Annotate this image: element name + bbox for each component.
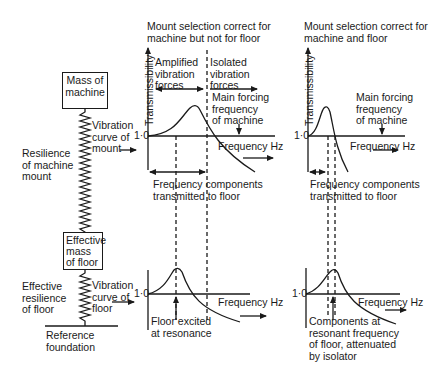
mid-top-x-axis-label: Frequency Hz	[218, 141, 283, 153]
main-forcing-frequency-label: Main forcing frequency of machine	[212, 92, 269, 127]
vibration-curve-mount-label: Vibration curve of mount	[92, 120, 133, 155]
mass-of-machine-box: Mass of machine	[62, 72, 108, 109]
mass-of-machine-label: Mass of machine	[63, 73, 107, 98]
mid-bottom-y-tick: 1·0	[134, 288, 149, 300]
vibration-curve-floor-label: Vibration curve of floor	[92, 280, 133, 315]
reference-foundation-label: Reference foundation	[46, 330, 95, 353]
mid-bottom-x-axis-label: Frequency Hz	[218, 297, 283, 309]
amplified-vibration-label: Amplified vibration forces	[155, 57, 198, 92]
right-top-y-axis-label: Transmissibility	[303, 55, 315, 126]
attenuated-components-label: Components at resonant frequency of floo…	[309, 316, 399, 362]
right-transmitted-label: Frequency components transmitted to floo…	[310, 179, 420, 202]
right-top-y-tick: 1·0	[294, 130, 309, 142]
right-bottom-x-axis-label: Frequency Hz	[358, 297, 423, 309]
effective-mass-floor-box: Effective mass of floor	[63, 232, 103, 270]
effective-resilience-floor-label: Effective resilience of floor	[22, 281, 66, 316]
middle-column-title: Mount selection correct for machine but …	[147, 20, 271, 44]
right-bottom-y-tick: 1·0	[292, 288, 307, 300]
floor-excited-label: Floor excited at resonance	[151, 316, 212, 339]
mid-transmitted-label: Frequency components transmitted to floo…	[153, 179, 263, 202]
mid-top-y-axis-label: Transmissibility	[143, 55, 155, 126]
mid-top-y-tick: 1·0	[134, 130, 149, 142]
machine-mount-spring-icon	[80, 109, 90, 235]
effective-mass-floor-label: Effective mass of floor	[64, 233, 102, 268]
floor-spring-icon	[80, 270, 90, 326]
right-column-title: Mount selection correct for machine and …	[304, 20, 428, 44]
right-top-x-axis-label: Frequency Hz	[350, 141, 415, 153]
right-main-forcing-frequency-label: Main forcing frequency of machine	[356, 92, 413, 127]
resilience-machine-mount-label: Resilience of machine mount	[22, 148, 73, 183]
isolated-vibration-label: Isolated vibration forces	[210, 57, 250, 92]
